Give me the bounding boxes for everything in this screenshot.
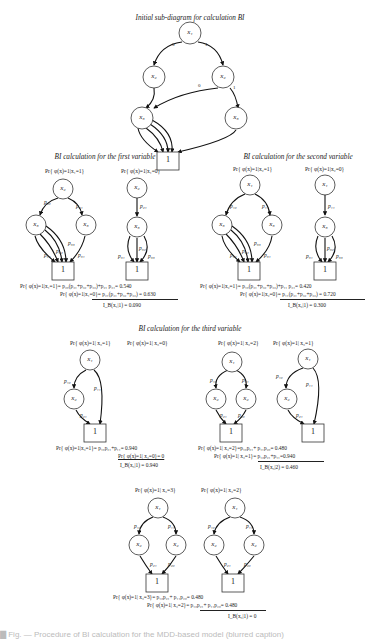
prob-p11: p₁₁ — [242, 377, 249, 383]
first-equation-2: Pr{ φ(x)=1|x₁=0}= p₂₁(p₃₁+p₃₂+p₃₃) = 0.6… — [60, 291, 156, 297]
terminal-one: 1 — [302, 427, 324, 436]
terminal-one: 1 — [157, 155, 179, 164]
third-a-equation-2: Pr{ φ(x)=1| x₃=0}= 0 — [118, 453, 164, 459]
prob-p20: p₂₀ — [168, 561, 175, 567]
second-equation-1: Pr{ φ(x)=1|x₂=1}= p₁₀(p₃₁+p₃₂+p₃₃)+p₁₁ p… — [200, 283, 312, 289]
node-x2: x₂ — [236, 394, 256, 402]
node-x2: x₂ — [206, 394, 226, 402]
prob-p32: p₃₂ — [327, 245, 334, 251]
node-x3: x₃ — [26, 220, 46, 228]
prob-p11: p₁₁ — [328, 203, 335, 209]
terminal-one: 1 — [52, 265, 74, 274]
node-x1: x₁ — [225, 503, 245, 511]
first-result: I_B(x₁|1) = 0.090 — [103, 302, 141, 308]
prob-p20: p₂₀ — [44, 199, 51, 205]
prob-p32: p₃₂ — [139, 245, 146, 251]
prob-p20: p₂₀ — [238, 412, 245, 418]
edge-label-1: 1 — [205, 42, 208, 47]
prob-p31: p₃₁ — [78, 252, 85, 258]
prob-p32: p₃₂ — [56, 248, 63, 254]
prob-p33: p₃₃ — [148, 253, 155, 259]
third-c-equation-1: Pr{ φ(x)=1| x₃=3}= p₁₀p₂₁+ p₁₁p₂₀= 0.480 — [113, 594, 203, 600]
node-x1: x₁ — [180, 28, 200, 36]
third-c-divider — [200, 610, 266, 611]
node-x2: x₂ — [213, 72, 233, 80]
node-x3: x₃ — [127, 222, 147, 230]
node-x2: x₂ — [64, 394, 84, 402]
node-x2: x₂ — [204, 540, 224, 548]
terminal-one: 1 — [126, 265, 148, 274]
prob-p31: p₃₁ — [306, 253, 313, 259]
prob-p11: p₁₁ — [246, 523, 253, 529]
edge-label-1: 1 — [233, 85, 236, 90]
node-x3: x₃ — [132, 113, 152, 121]
prob-p21: p₂₁ — [80, 412, 87, 418]
node-x3: x₃ — [76, 220, 96, 228]
terminal-one: 1 — [84, 427, 106, 436]
prob-p21: p₂₁ — [150, 561, 157, 567]
prob-p10: p₁₀ — [208, 523, 215, 529]
prob-p20: p₂₀ — [244, 561, 251, 567]
prob-p11: p₁₁ — [306, 381, 313, 387]
node-x1: x₁ — [80, 355, 100, 363]
node-x2: x₂ — [244, 540, 264, 548]
prob-p21: p₂₁ — [76, 203, 83, 209]
edge-label-0: 0 — [198, 83, 201, 88]
prob-p10: p₁₀ — [210, 377, 217, 383]
first-equation-1: Pr{ φ(x)=1|x₁=1}= p₂₀(p₃₁+p₃₂+p₃₃)+p₂₁ p… — [20, 283, 132, 289]
node-x2: x₂ — [144, 72, 164, 80]
third-c-equation-2: Pr{ φ(x)=1| x₃=2}= p₁₀p₂₁+ p₁₁p₂₀= 0.480 — [147, 602, 237, 608]
node-x2: x₂ — [277, 394, 297, 402]
prob-p32: p₃₂ — [242, 248, 249, 254]
prob-p11: p₁₁ — [168, 523, 175, 529]
prob-p11: p₁₁ — [262, 203, 269, 209]
node-x2: x₂ — [53, 184, 73, 192]
terminal-one: 1 — [220, 427, 242, 436]
prob-p10: p₁₀ — [64, 378, 71, 384]
third-b-divider — [258, 461, 324, 462]
third-a-equation-1: Pr{ φ(x)=1|x₃=1}= p₁₀p₂₁+p₁₁= 0.940 — [56, 445, 137, 451]
first-divider — [92, 299, 178, 300]
node-x1: x₁ — [240, 180, 260, 188]
prob-p33: p₃₃ — [336, 253, 343, 259]
node-x3: x₃ — [262, 220, 282, 228]
prob-p10: p₁₀ — [230, 203, 237, 209]
node-x2: x₂ — [127, 183, 147, 191]
second-result: I_B(x₂|1) = 0.300 — [288, 302, 326, 308]
terminal-one: 1 — [314, 265, 336, 274]
prob-p33: p₃₃ — [254, 240, 261, 246]
edge-label-0: 0 — [172, 42, 175, 47]
prob-p31: p₃₁ — [44, 252, 51, 258]
prob-p10: p₁₀ — [134, 523, 141, 529]
third-b-equation-1: Pr{ φ(x)=1| x₃=2}=p₁₀p₂₁+ p₁₁p₂₀= 0.480 — [198, 445, 287, 451]
prob-p31: p₃₁ — [118, 253, 125, 259]
node-x2: x₂ — [166, 540, 186, 548]
third-a-result: I_B(x₃|1) = 0.940 — [120, 462, 158, 468]
terminal-one: 1 — [222, 577, 244, 586]
node-x2: x₂ — [129, 540, 149, 548]
node-x3: x₃ — [212, 220, 232, 228]
node-x3: x₃ — [226, 113, 246, 121]
prob-p33: p₃₃ — [68, 240, 75, 246]
prob-p31: p₃₁ — [230, 252, 237, 258]
terminal-one: 1 — [146, 577, 168, 586]
prob-p21: p₂₁ — [224, 561, 231, 567]
second-divider — [280, 299, 365, 300]
third-c-result: I_B(x₃|1) = 0 — [228, 613, 256, 619]
node-x1: x₁ — [315, 180, 335, 188]
node-x1: x₁ — [148, 503, 168, 511]
node-x3: x₃ — [315, 222, 335, 230]
prob-p10: p₁₀ — [276, 373, 283, 379]
third-b-equation-2: Pr{ φ(x)=1| x₃=1}= p₁₀p₂₁+p₁₁=0.940 — [214, 453, 295, 459]
node-x1: x₁ — [222, 357, 242, 365]
figure-caption: ▇ Fig. — Procedure of BI calculation for… — [0, 630, 284, 639]
second-equation-2: Pr{ φ(x)=1|x₂=0}= p₁₁(p₃₁+p₃₂+p₃₃) = 0.7… — [240, 291, 336, 297]
node-x1: x₁ — [298, 354, 318, 362]
prob-p11: p₁₁ — [94, 385, 101, 391]
prob-p31: p₃₁ — [264, 252, 271, 258]
third-b-result: I_B(x₃|2) = 0.460 — [260, 464, 298, 470]
terminal-one: 1 — [238, 265, 260, 274]
prob-p21: p₂₁ — [220, 412, 227, 418]
prob-p21: p₂₁ — [140, 203, 147, 209]
prob-p21: p₂₁ — [296, 412, 303, 418]
